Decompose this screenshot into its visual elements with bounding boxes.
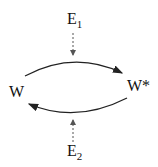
node-e2: E2	[67, 143, 82, 162]
node-e1: E1	[67, 11, 82, 30]
node-w-star: W*	[127, 78, 150, 94]
forward-arc-arrow	[25, 62, 122, 76]
node-w: W	[9, 84, 24, 100]
backward-arc-arrow	[29, 98, 127, 113]
